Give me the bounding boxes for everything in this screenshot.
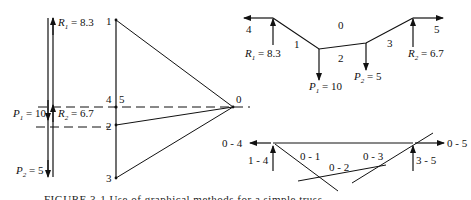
force-polygon-labels: 1 4 5 2 3 0: [106, 15, 242, 184]
point-1-label: 1: [106, 15, 112, 27]
force-polygon: [114, 19, 234, 180]
p1-label: P1 = 10: [12, 107, 46, 122]
point-5-label: 5: [119, 93, 125, 105]
force-5-label: 5: [434, 23, 440, 35]
point-2-label: 2: [106, 120, 112, 132]
point-4-label: 4: [106, 93, 112, 105]
truss-graphical-diagram: R1 = 8.3 P1 = 10 R2 = 6.7 P2 = 5 1 4 5 2…: [0, 0, 471, 200]
funicular-labels: 4 5 0 1 2 3 R1 = 8.3 P1 = 10 P2 = 5 R2 =…: [244, 19, 444, 95]
r1-top-label: R1 = 8.3: [244, 47, 281, 62]
r2-top-label: R2 = 6.7: [407, 47, 444, 62]
point-3-label: 3: [106, 172, 112, 184]
m05-label: 0 - 5: [447, 137, 468, 149]
force-4-label: 4: [246, 23, 252, 35]
m04-label: 0 - 4: [222, 137, 243, 149]
r1-label: R1 = 8.3: [57, 16, 94, 31]
r2-label: R2 = 6.7: [57, 107, 94, 122]
figure-caption: FIGURE 3-1 Use of graphical methods for …: [44, 193, 322, 200]
segment-1-label: 1: [294, 38, 300, 50]
p1-top-label: P1 = 10: [308, 80, 342, 95]
p2-label: P2 = 5: [15, 164, 44, 179]
m14-label: 1 - 4: [248, 154, 269, 166]
m02-label: 0 - 2: [329, 161, 349, 173]
m03-label: 0 - 3: [363, 150, 384, 162]
load-line: [48, 18, 53, 177]
m01-label: 0 - 1: [300, 150, 320, 162]
segment-2-label: 2: [338, 52, 344, 64]
m35-label: 3 - 5: [416, 154, 437, 166]
space-0-label: 0: [338, 19, 344, 31]
segment-3-label: 3: [387, 37, 393, 49]
p2-top-label: P2 = 5: [353, 70, 382, 85]
pole-0-label: 0: [236, 93, 242, 105]
